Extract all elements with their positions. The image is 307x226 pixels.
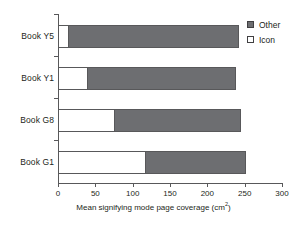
x-axis-title: Mean signifying mode page coverage (cm2) <box>0 203 307 212</box>
x-axis-tick <box>207 183 208 187</box>
legend-item: Other <box>247 18 280 31</box>
bar-segment-icon <box>58 109 114 132</box>
x-axis-title-text: Mean signifying mode page coverage (cm <box>76 203 225 212</box>
y-axis-category-label: Book G1 <box>0 157 54 167</box>
y-axis-category-label: Book Y5 <box>0 31 54 41</box>
bar-segment-icon <box>58 151 145 174</box>
y-axis-tick <box>54 140 58 141</box>
bar-segment-other <box>114 109 241 132</box>
bar-chart: Book Y5Book Y1Book G8Book G1 05010015020… <box>0 0 307 226</box>
bar-segment-other <box>87 67 236 90</box>
bar-row <box>58 109 241 132</box>
x-axis-tick <box>282 183 283 187</box>
bar-segment-icon <box>58 67 87 90</box>
bar-segment-icon <box>58 25 68 48</box>
x-axis-tick-label: 50 <box>91 189 100 198</box>
legend-item: Icon <box>247 33 280 46</box>
bar-segment-other <box>68 25 238 48</box>
y-axis-tick <box>54 14 58 15</box>
x-axis-tick-label: 250 <box>238 189 251 198</box>
bar-row <box>58 151 246 174</box>
y-axis-tick <box>54 56 58 57</box>
x-axis-tick-label: 200 <box>201 189 214 198</box>
legend: OtherIcon <box>247 18 280 48</box>
bar-segment-other <box>145 151 247 174</box>
legend-swatch-other <box>247 21 254 28</box>
x-axis-tick-label: 150 <box>163 189 176 198</box>
y-axis-tick <box>54 98 58 99</box>
x-axis-title-tail: ) <box>228 203 231 212</box>
x-axis-tick-label: 100 <box>126 189 139 198</box>
legend-swatch-icon <box>247 36 254 43</box>
x-axis-tick-label: 300 <box>275 189 288 198</box>
x-axis-tick <box>95 183 96 187</box>
y-axis-category-label: Book Y1 <box>0 73 54 83</box>
x-axis-tick <box>170 183 171 187</box>
x-axis-tick-label: 0 <box>56 189 60 198</box>
x-axis-tick <box>58 183 59 187</box>
y-axis-category-label: Book G8 <box>0 115 54 125</box>
bar-row <box>58 67 236 90</box>
legend-label: Icon <box>259 35 275 45</box>
x-axis-tick <box>245 183 246 187</box>
legend-label: Other <box>259 20 280 30</box>
x-axis-tick <box>133 183 134 187</box>
bar-row <box>58 25 239 48</box>
